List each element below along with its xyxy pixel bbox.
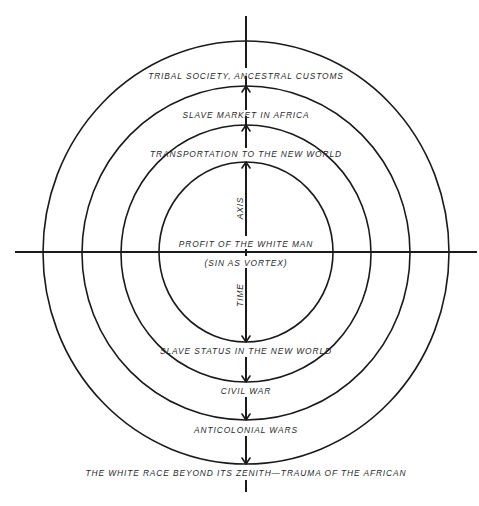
label-anticolonial-wars: ANTICOLONIAL WARS <box>193 425 298 435</box>
label-profit: PROFIT OF THE WHITE MAN <box>179 239 314 249</box>
vortex-diagram: TRIBAL SOCIETY, ANCESTRAL CUSTOMS SLAVE … <box>0 0 479 506</box>
label-time: TIME <box>235 283 245 307</box>
label-tribal-society: TRIBAL SOCIETY, ANCESTRAL CUSTOMS <box>148 71 344 81</box>
label-white-race-zenith: THE WHITE RACE BEYOND ITS ZENITH—TRAUMA … <box>86 468 407 478</box>
label-civil-war: CIVIL WAR <box>221 386 272 396</box>
label-slave-market: SLAVE MARKET IN AFRICA <box>183 110 310 120</box>
label-sin-as-vortex: (SIN AS VORTEX) <box>205 258 288 268</box>
label-slave-status: SLAVE STATUS IN THE NEW WORLD <box>160 346 332 356</box>
label-axis: AXIS <box>235 197 245 221</box>
label-transportation: TRANSPORTATION TO THE NEW WORLD <box>150 149 342 159</box>
